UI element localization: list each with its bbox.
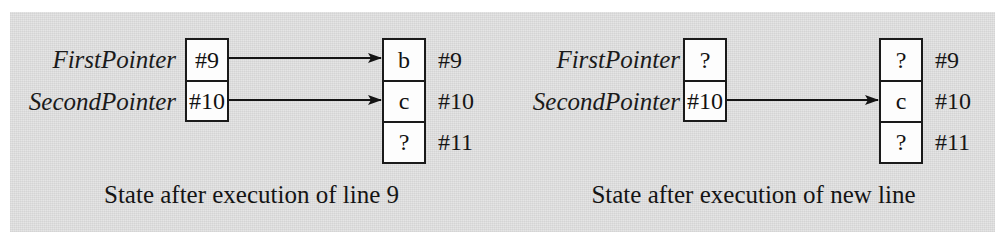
memory-cell-11: ? xyxy=(881,121,921,162)
pointer-cell-secondpointer: #10 xyxy=(685,80,725,120)
memory-box: b c ? xyxy=(382,38,426,164)
memory-address-label-9: #9 xyxy=(438,48,462,72)
memory-cell-9: ? xyxy=(881,40,921,80)
figure-root: FirstPointer SecondPointer #9 #10 b c ? … xyxy=(0,0,1005,245)
panel-state-after-line-9: FirstPointer SecondPointer #9 #10 b c ? … xyxy=(0,0,503,245)
pointer-cell-firstpointer: #9 xyxy=(187,40,227,80)
memory-address-label-10: #10 xyxy=(438,89,474,113)
memory-cell-9: b xyxy=(384,40,424,80)
panel-caption-right: State after execution of new line xyxy=(502,182,1005,207)
memory-address-label-9: #9 xyxy=(935,48,959,72)
memory-cell-11: ? xyxy=(384,121,424,162)
panel-caption-left: State after execution of line 9 xyxy=(0,182,503,207)
memory-cell-10: c xyxy=(384,80,424,121)
pointer-label-secondpointer: SecondPointer xyxy=(502,89,680,114)
memory-cell-10: c xyxy=(881,80,921,121)
pointer-arrows xyxy=(0,0,503,245)
pointer-label-firstpointer: FirstPointer xyxy=(502,47,680,72)
pointer-label-firstpointer: FirstPointer xyxy=(0,47,176,72)
memory-address-label-11: #11 xyxy=(935,130,970,154)
panel-state-after-new-line: FirstPointer SecondPointer ? #10 ? c ? #… xyxy=(502,0,1005,245)
pointer-arrows xyxy=(502,0,1005,245)
memory-address-label-10: #10 xyxy=(935,89,971,113)
pointer-cell-firstpointer: ? xyxy=(685,40,725,80)
pointer-label-secondpointer: SecondPointer xyxy=(0,89,176,114)
memory-box: ? c ? xyxy=(879,38,923,164)
pointer-cell-secondpointer: #10 xyxy=(187,80,227,120)
pointer-variable-box: ? #10 xyxy=(683,38,727,122)
memory-address-label-11: #11 xyxy=(438,130,473,154)
pointer-variable-box: #9 #10 xyxy=(185,38,229,122)
